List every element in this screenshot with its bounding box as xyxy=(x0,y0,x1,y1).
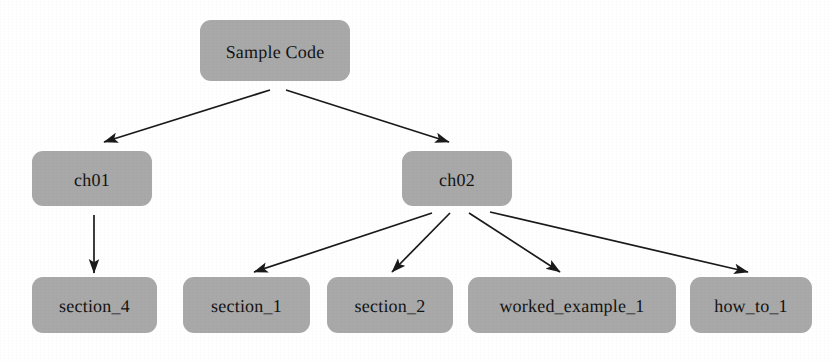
node-section_4[interactable]: section_4 xyxy=(32,277,157,333)
node-label-section_2: section_2 xyxy=(355,297,426,315)
node-section_1[interactable]: section_1 xyxy=(183,277,310,333)
node-label-section_4: section_4 xyxy=(59,297,130,315)
node-ch01[interactable]: ch01 xyxy=(32,151,152,206)
edge-sample-code-to-ch01 xyxy=(104,90,270,142)
node-how_to_1[interactable]: how_to_1 xyxy=(690,277,812,333)
node-label-section_1: section_1 xyxy=(211,297,282,315)
edge-sample-code-to-ch02 xyxy=(286,90,449,142)
node-sample_code[interactable]: Sample Code xyxy=(200,20,350,81)
node-worked_example_1[interactable]: worked_example_1 xyxy=(468,277,676,333)
node-label-sample_code: Sample Code xyxy=(226,43,325,61)
edge-ch02-to-worked-example-1 xyxy=(469,213,560,272)
edge-ch02-to-section-1 xyxy=(254,213,432,272)
node-label-ch01: ch01 xyxy=(74,171,110,189)
node-label-how_to_1: how_to_1 xyxy=(714,297,788,315)
node-label-worked_example_1: worked_example_1 xyxy=(499,297,644,315)
node-label-ch02: ch02 xyxy=(439,171,475,189)
edge-ch02-to-how-to-1 xyxy=(490,212,748,272)
node-ch02[interactable]: ch02 xyxy=(402,151,512,206)
diagram-canvas: Sample Codech01ch02section_4section_1sec… xyxy=(0,0,832,362)
edge-ch02-to-section-2 xyxy=(392,213,450,272)
node-section_2[interactable]: section_2 xyxy=(327,277,453,333)
